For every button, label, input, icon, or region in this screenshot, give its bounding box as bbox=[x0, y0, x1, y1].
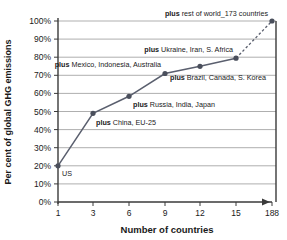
annotation-mexico-indonesia-australia-bold: plus bbox=[55, 60, 70, 69]
y-tick-label-10: 10% bbox=[34, 179, 51, 189]
annotation-china-eu25-bold: plus bbox=[96, 118, 111, 127]
annotation-us-text: US bbox=[62, 169, 72, 178]
annotation-russia-india-japan-text: Russia, India, Japan bbox=[148, 100, 215, 109]
annotation-russia-india-japan-bold: plus bbox=[133, 100, 148, 109]
annotation-rest-of-world: plus rest of world_173 countries bbox=[165, 9, 268, 18]
y-tick-label-90: 90% bbox=[34, 34, 51, 44]
data-point-15 bbox=[233, 56, 238, 61]
annotation-ukraine-iran-s-africa-text: Ukraine, Iran, S. Africa bbox=[159, 45, 233, 54]
x-tick-label-6: 6 bbox=[127, 208, 132, 218]
data-point-3 bbox=[90, 111, 95, 116]
y-tick-label-70: 70% bbox=[34, 70, 51, 80]
ghg-emissions-line-chart: 100% 90% 80% 70% 60% 50% 40% 30% 20% 10%… bbox=[0, 0, 287, 240]
annotation-ukraine-iran-s-africa-bold: plus bbox=[144, 45, 159, 54]
y-tick-label-20: 20% bbox=[34, 161, 51, 171]
data-point-1 bbox=[55, 163, 60, 168]
x-tick-label-1: 1 bbox=[56, 208, 61, 218]
data-point-188 bbox=[269, 18, 274, 23]
data-point-6 bbox=[126, 94, 131, 99]
y-tick-label-0: 0% bbox=[39, 197, 52, 207]
x-tick-label-15: 15 bbox=[231, 208, 241, 218]
annotation-mexico-indonesia-australia: plus Mexico, Indonesia, Australia bbox=[55, 60, 161, 69]
data-point-9 bbox=[162, 71, 167, 76]
annotation-brazil-canada-s-korea-bold: plus bbox=[170, 73, 185, 82]
y-tick-label-100: 100% bbox=[29, 16, 51, 26]
annotation-brazil-canada-s-korea: plus Brazil, Canada, S. Korea bbox=[170, 73, 266, 82]
annotation-brazil-canada-s-korea-text: Brazil, Canada, S. Korea bbox=[185, 73, 266, 82]
x-tick-label-188: 188 bbox=[265, 208, 279, 218]
x-tick-label-3: 3 bbox=[91, 208, 96, 218]
x-tick-label-9: 9 bbox=[163, 208, 168, 218]
y-tick-label-80: 80% bbox=[34, 52, 51, 62]
data-point-12 bbox=[197, 64, 202, 69]
y-tick-label-50: 50% bbox=[34, 107, 51, 117]
annotation-russia-india-japan: plus Russia, India, Japan bbox=[133, 100, 215, 109]
x-axis-title: Number of countries bbox=[121, 224, 214, 235]
x-tick-label-12: 12 bbox=[195, 208, 205, 218]
annotation-rest-of-world-text: rest of world_173 countries bbox=[180, 9, 269, 18]
annotation-ukraine-iran-s-africa: plus Ukraine, Iran, S. Africa bbox=[144, 45, 233, 54]
annotation-rest-of-world-bold: plus bbox=[165, 9, 180, 18]
annotation-mexico-indonesia-australia-text: Mexico, Indonesia, Australia bbox=[70, 60, 162, 69]
y-tick-label-40: 40% bbox=[34, 125, 51, 135]
y-tick-label-60: 60% bbox=[34, 88, 51, 98]
y-axis-title: Per cent of global GHG emissions bbox=[3, 39, 13, 184]
chart-container: 100% 90% 80% 70% 60% 50% 40% 30% 20% 10%… bbox=[0, 0, 287, 240]
annotation-us: US bbox=[62, 169, 72, 178]
annotation-china-eu25-text: China, EU-25 bbox=[111, 118, 156, 127]
y-tick-label-30: 30% bbox=[34, 143, 51, 153]
annotation-china-eu25: plus China, EU-25 bbox=[96, 118, 156, 127]
